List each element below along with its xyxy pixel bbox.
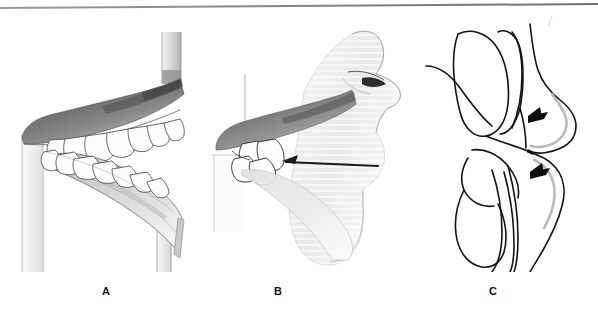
panel-caption-a: A (102, 285, 110, 297)
maxillary-incisor-inner-line (512, 32, 522, 128)
panel-caption-b: B (274, 285, 282, 297)
vertical-reference-bar-lower (22, 132, 43, 272)
panel-c-svg (424, 22, 596, 272)
top-watermark-text: ........... ...... (430, 0, 595, 5)
incisor-distal-line (520, 108, 526, 148)
mandibular-incisor-body (462, 158, 494, 206)
maxillary-incisor-outline (454, 31, 509, 136)
upper-lip-contour (528, 24, 576, 153)
panel-a-svg (2, 22, 210, 272)
lower-lip-arrow (530, 163, 550, 179)
figure-container: ........... ...... / (0, 0, 598, 311)
alveolar-line-upper (426, 66, 492, 126)
panel-b-svg (212, 22, 420, 272)
panel-a-illustration (2, 22, 210, 272)
panel-caption-c: C (489, 285, 497, 297)
mandibular-incisor-upper-outline (472, 150, 519, 198)
mandibular-incisor-inner-line (492, 170, 502, 272)
vertical-reference-bar-upper (162, 32, 181, 84)
upper-lip-arrow (528, 107, 548, 123)
panel-b-illustration (212, 22, 420, 272)
mandibular-incisor-root (455, 190, 506, 267)
panel-c-illustration (424, 22, 596, 272)
